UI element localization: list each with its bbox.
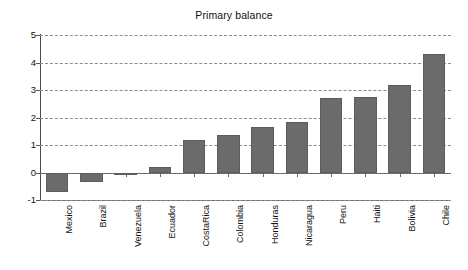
x-tick-mark-venezuela xyxy=(126,173,127,177)
y-tick-label--1: -1 xyxy=(6,195,36,205)
plot-area xyxy=(40,35,451,200)
x-axis-category-labels: MexicoBrazilVenezuelaEcuadorCostaRicaCol… xyxy=(40,203,451,267)
bar-costarica xyxy=(183,140,206,173)
bar-haiti xyxy=(354,97,377,173)
x-label-bolivia: Bolivia xyxy=(405,203,419,270)
bar-chile xyxy=(423,54,446,172)
bar-bolivia xyxy=(388,85,411,173)
x-label-peru: Peru xyxy=(336,203,350,270)
gridline-4 xyxy=(40,63,451,64)
x-tick-mark-mexico xyxy=(57,173,58,177)
x-label-venezuela: Venezuela xyxy=(131,203,145,270)
x-label-nicaragua: Nicaragua xyxy=(302,203,316,270)
y-tick-label-3: 3 xyxy=(6,85,36,95)
x-label-haiti: Haiti xyxy=(370,203,384,270)
x-tick-mark-colombia xyxy=(228,173,229,177)
x-tick-mark-brazil xyxy=(91,173,92,177)
bar-honduras xyxy=(251,127,274,172)
bar-nicaragua xyxy=(286,122,309,173)
y-tick-label-1: 1 xyxy=(6,140,36,150)
y-tick-label-5: 5 xyxy=(6,30,36,40)
y-tick-label-2: 2 xyxy=(6,113,36,123)
x-label-chile: Chile xyxy=(439,203,453,270)
x-label-brazil: Brazil xyxy=(96,203,110,270)
x-tick-mark-bolivia xyxy=(400,173,401,177)
x-tick-mark-chile xyxy=(434,173,435,177)
x-tick-mark-nicaragua xyxy=(297,173,298,177)
x-label-honduras: Honduras xyxy=(268,203,282,270)
x-tick-mark-costarica xyxy=(194,173,195,177)
x-tick-mark-honduras xyxy=(263,173,264,177)
y-tick-label-0: 0 xyxy=(6,168,36,178)
x-label-ecuador: Ecuador xyxy=(165,203,179,270)
bar-chart: Primary balance -1012345 MexicoBrazilVen… xyxy=(0,0,468,270)
chart-title: Primary balance xyxy=(0,9,468,21)
x-tick-mark-haiti xyxy=(365,173,366,177)
gridline-5 xyxy=(40,35,451,36)
bar-colombia xyxy=(217,135,240,172)
x-label-colombia: Colombia xyxy=(233,203,247,270)
gridline--1 xyxy=(40,200,451,201)
x-tick-mark-ecuador xyxy=(160,173,161,177)
x-label-mexico: Mexico xyxy=(62,203,76,270)
y-tick-label-4: 4 xyxy=(6,58,36,68)
x-tick-mark-peru xyxy=(331,173,332,177)
x-label-costarica: CostaRica xyxy=(199,203,213,270)
bar-peru xyxy=(320,98,343,172)
y-axis-tick-labels: -1012345 xyxy=(0,35,36,200)
